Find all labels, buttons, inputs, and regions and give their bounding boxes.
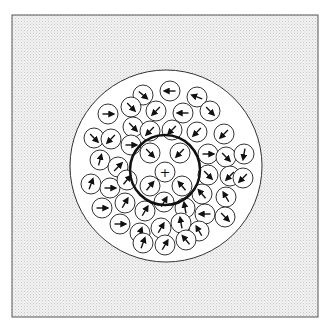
particle	[233, 168, 253, 188]
particle	[215, 207, 235, 227]
particle	[173, 103, 193, 123]
particle	[90, 150, 110, 170]
particle	[216, 187, 236, 207]
particle	[176, 230, 196, 250]
diagram-canvas: +	[0, 0, 334, 329]
particle	[110, 214, 130, 234]
particle	[154, 192, 174, 212]
particle	[81, 174, 101, 194]
particle	[101, 129, 121, 149]
particle	[155, 235, 175, 255]
particle	[133, 233, 153, 253]
particle	[140, 176, 160, 196]
particle	[187, 122, 207, 142]
particle	[98, 104, 118, 124]
particle	[135, 201, 155, 221]
particle	[216, 147, 236, 167]
particle	[200, 101, 220, 121]
particle	[170, 143, 190, 163]
particle	[140, 143, 160, 163]
particle	[121, 97, 141, 117]
particle	[121, 135, 141, 155]
plus-icon: +	[160, 165, 171, 180]
particle	[115, 193, 135, 213]
center-marker: +	[155, 162, 175, 182]
particle	[198, 144, 218, 164]
particle	[214, 124, 234, 144]
particle	[234, 144, 254, 164]
particle	[146, 101, 166, 121]
particle	[92, 198, 112, 218]
particle	[172, 176, 192, 196]
particle	[160, 81, 180, 101]
